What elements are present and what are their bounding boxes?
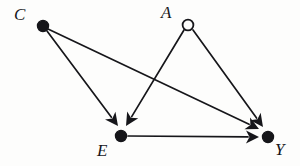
node-label-y: Y (275, 141, 284, 158)
edge-C-Y-line (48, 29, 249, 124)
edge-A-E-arrowhead (126, 112, 138, 126)
edge-A-Y-line (193, 30, 257, 118)
node-a-open-circle (183, 20, 194, 31)
node-label-e: E (97, 142, 107, 159)
node-c-filled-circle (37, 20, 48, 31)
nodes-layer (37, 20, 273, 143)
causal-diagram: C A E Y (0, 0, 300, 166)
edge-E-Y-line (128, 136, 248, 137)
node-y-filled-circle (262, 131, 273, 142)
node-label-a: A (161, 4, 171, 21)
edges-layer (47, 29, 263, 143)
edge-C-E-arrowhead (105, 112, 118, 126)
node-e-filled-circle (115, 130, 126, 141)
node-label-c: C (14, 6, 25, 23)
graph-canvas (0, 0, 300, 166)
